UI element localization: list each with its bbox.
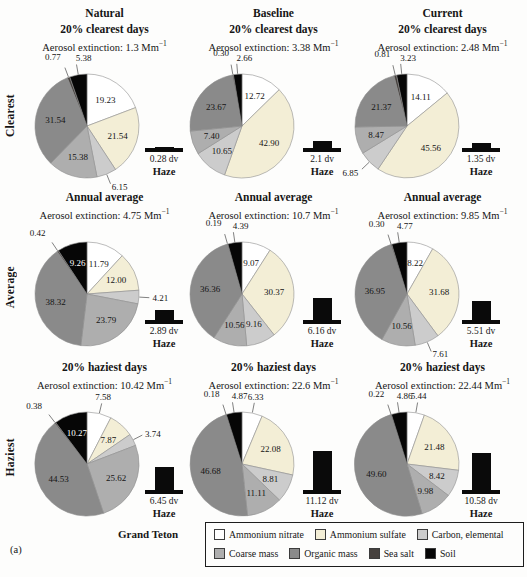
slice-label: 4.77	[397, 221, 413, 231]
legend-item-organic-mass: Organic mass	[289, 544, 357, 563]
legend-label: Ammonium nitrate	[229, 525, 304, 544]
panel-current-clearest: Current 20% clearest days Aerosol extinc…	[358, 0, 527, 182]
legend-row: Ammonium nitrateAmmonium sulfateCarbon, …	[214, 525, 519, 544]
panel-subtitle: Annual average	[189, 190, 358, 204]
slice-label: 21.54	[108, 131, 129, 141]
legend-area: Grand Teton Ammonium nitrateAmmonium sul…	[0, 522, 527, 577]
slice-label: 0.42	[30, 227, 46, 237]
slice-label: 4.39	[233, 221, 249, 231]
haze-value: 1.35 dv	[467, 153, 496, 166]
label-leader-line	[237, 63, 238, 73]
slice-label: 0.30	[369, 218, 385, 228]
haze-indicator: 5.51 dv Haze	[458, 278, 504, 350]
legend-item-ammonium-sulfate: Ammonium sulfate	[315, 525, 406, 544]
label-leader-line	[231, 64, 233, 74]
slice-label: 4.87	[232, 391, 248, 401]
slice-label: 3.74	[145, 428, 161, 438]
slice-label: 49.60	[366, 468, 387, 478]
slice-label: 5.38	[76, 53, 92, 63]
slice-label: 25.62	[106, 472, 126, 482]
panel-subtitle: 20% clearest days	[20, 22, 189, 36]
extinction-text: Aerosol extinction: 10.42 Mm−1	[20, 375, 189, 392]
slice-label: 42.90	[259, 138, 280, 148]
slice-label: 46.68	[200, 465, 221, 475]
label-leader-line	[427, 342, 431, 351]
slice-label: 11.11	[246, 488, 266, 498]
slice-label: 12.00	[106, 275, 127, 285]
haze-axis-label: Haze	[470, 338, 493, 350]
label-leader-line	[49, 414, 55, 422]
label-leader-line	[401, 63, 402, 73]
column-title-baseline: Baseline	[189, 6, 358, 20]
slice-label: 45.56	[421, 142, 442, 152]
label-leader-line	[252, 402, 254, 412]
panel-current-average: Annual average Aerosol extinction: 9.85 …	[358, 182, 527, 352]
slice-label: 7.40	[204, 131, 220, 141]
legend-swatch-ammonium-sulfate	[315, 529, 326, 540]
panel-subtitle: Annual average	[358, 190, 527, 204]
slice-label: 9.16	[246, 319, 262, 329]
haze-axis-label: Haze	[470, 166, 493, 178]
label-leader-line	[393, 65, 395, 75]
legend-label: Carbon, elemental	[432, 525, 504, 544]
legend-swatch-sea-salt	[369, 548, 380, 559]
slice-label: 36.36	[200, 284, 221, 294]
haze-axis-label: Haze	[470, 508, 493, 520]
label-leader-line	[362, 162, 369, 169]
panel-current-haziest: 20% haziest days Aerosol extinction: 22.…	[358, 352, 527, 522]
label-leader-line	[233, 232, 234, 242]
slice-label: 0.18	[204, 388, 220, 398]
legend-label: Soil	[440, 544, 456, 563]
legend-item-soil: Soil	[425, 544, 456, 563]
label-leader-line	[225, 234, 228, 244]
legend-label: Ammonium sulfate	[330, 525, 406, 544]
legend-swatch-coarse-mass	[214, 548, 225, 559]
site-label: Grand Teton	[118, 528, 178, 540]
label-leader-line	[388, 234, 391, 243]
legend-swatch-soil	[425, 548, 436, 559]
slice-label: 5.44	[411, 391, 427, 401]
haze-bar	[472, 453, 491, 490]
slice-label: 0.22	[369, 388, 385, 398]
haze-value: 5.51 dv	[467, 325, 496, 338]
slice-label: 23.79	[96, 315, 117, 325]
legend-label: Sea salt	[384, 544, 414, 563]
slice-label: 9.26	[70, 258, 86, 268]
label-leader-line	[398, 232, 400, 242]
panel-subtitle: 20% clearest days	[189, 22, 358, 36]
slice-label: 15.38	[68, 151, 89, 161]
legend-swatch-organic-mass	[289, 548, 300, 559]
slice-label: 4.86	[397, 391, 413, 401]
slice-label: 12.72	[244, 91, 264, 101]
legend-label: Coarse mass	[229, 544, 278, 563]
slice-label: 0.38	[26, 400, 42, 410]
haze-indicator: 1.35 dv Haze	[458, 106, 504, 178]
slice-label: 31.68	[429, 287, 450, 297]
slice-label: 36.95	[365, 286, 386, 296]
slice-label: 8.47	[368, 130, 384, 140]
haze-bar	[472, 301, 491, 320]
legend-box: Ammonium nitrateAmmonium sulfateCarbon, …	[205, 522, 524, 567]
slice-label: 3.23	[400, 52, 416, 62]
label-leader-line	[52, 242, 58, 250]
slice-label: 8.81	[263, 474, 279, 484]
haze-baseline	[462, 490, 500, 494]
slice-label: 2.66	[236, 52, 252, 62]
label-leader-line	[65, 67, 69, 76]
legend-swatch-ammonium-nitrate	[214, 529, 225, 540]
slice-label: 31.54	[45, 114, 66, 124]
slice-label: 38.32	[46, 296, 66, 306]
panel-tag: (a)	[10, 544, 22, 555]
slice-label: 0.19	[206, 218, 222, 228]
slice-label: 7.87	[100, 434, 116, 444]
legend-row: Coarse massOrganic massSea saltSoil	[214, 544, 519, 563]
slice-label: 10.56	[391, 320, 412, 330]
panel-subtitle: 20% haziest days	[358, 360, 527, 374]
haze-value: 10.58 dv	[464, 495, 497, 508]
slice-label: 0.81	[375, 49, 391, 59]
slice-label: 44.53	[49, 474, 70, 484]
haze-baseline	[462, 320, 500, 324]
panel-subtitle: 20% haziest days	[189, 360, 358, 374]
legend-swatch-carbon-elemental	[417, 529, 428, 540]
haze-baseline	[462, 148, 500, 152]
